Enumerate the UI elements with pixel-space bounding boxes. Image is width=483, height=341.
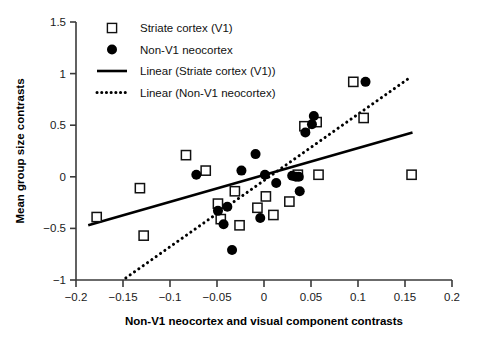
data-point-non-v1-neocortex <box>300 127 310 137</box>
y-tick-label: 0 <box>60 171 66 183</box>
x-tick-label: 0 <box>261 291 267 303</box>
data-point-non-v1-neocortex <box>219 219 229 229</box>
x-tick-label: 0.2 <box>444 291 460 303</box>
data-point-non-v1-neocortex <box>271 178 281 188</box>
data-point-striate-cortex-v1 <box>285 197 294 206</box>
data-point-striate-cortex-v1 <box>359 113 368 122</box>
y-tick-label: −0.5 <box>43 222 66 234</box>
data-point-non-v1-neocortex <box>251 149 261 159</box>
legend-label: Linear (Non-V1 neocortex) <box>140 87 276 99</box>
data-point-striate-cortex-v1 <box>92 212 101 221</box>
y-tick-label: 1.5 <box>50 16 66 28</box>
legend-marker-open-square <box>107 23 116 32</box>
y-tick-label: 1 <box>60 68 66 80</box>
legend-label: Linear (Striate cortex (V1)) <box>140 65 276 77</box>
y-tick-label: −1 <box>53 274 66 286</box>
y-tick-label: 0.5 <box>50 119 66 131</box>
data-point-striate-cortex-v1 <box>314 170 323 179</box>
data-point-striate-cortex-v1 <box>253 203 262 212</box>
data-point-striate-cortex-v1 <box>349 77 358 86</box>
data-point-non-v1-neocortex <box>213 206 223 216</box>
x-axis-title: Non-V1 neocortex and visual component co… <box>125 315 403 327</box>
data-point-non-v1-neocortex <box>295 186 305 196</box>
data-point-non-v1-neocortex <box>227 245 237 255</box>
data-point-striate-cortex-v1 <box>269 210 278 219</box>
x-tick-label: −0.1 <box>159 291 182 303</box>
x-tick-label: −0.05 <box>202 291 231 303</box>
legend-marker-filled-circle <box>107 45 117 55</box>
data-point-striate-cortex-v1 <box>135 184 144 193</box>
data-point-non-v1-neocortex <box>361 77 371 87</box>
data-point-non-v1-neocortex <box>191 170 201 180</box>
data-point-striate-cortex-v1 <box>230 187 239 196</box>
x-tick-label: 0.05 <box>300 291 322 303</box>
y-axis-title: Mean group size contrasts <box>14 78 26 223</box>
data-point-non-v1-neocortex <box>236 166 246 176</box>
x-tick-label: 0.1 <box>350 291 366 303</box>
data-point-striate-cortex-v1 <box>201 166 210 175</box>
data-point-striate-cortex-v1 <box>139 231 148 240</box>
data-point-striate-cortex-v1 <box>235 221 244 230</box>
x-tick-label: 0.15 <box>394 291 416 303</box>
data-point-non-v1-neocortex <box>260 170 270 180</box>
data-point-striate-cortex-v1 <box>407 170 416 179</box>
legend-label: Striate cortex (V1) <box>140 22 233 34</box>
data-point-non-v1-neocortex <box>309 111 319 121</box>
x-axis-tick-labels: −0.2−0.15−0.1−0.0500.050.10.150.2 <box>65 291 460 303</box>
data-point-non-v1-neocortex <box>294 172 304 182</box>
data-point-non-v1-neocortex <box>222 202 232 212</box>
data-point-non-v1-neocortex <box>255 213 265 223</box>
x-tick-label: −0.15 <box>108 291 137 303</box>
data-point-striate-cortex-v1 <box>261 192 270 201</box>
x-tick-label: −0.2 <box>65 291 88 303</box>
data-point-non-v1-neocortex <box>307 119 317 129</box>
data-point-striate-cortex-v1 <box>181 151 190 160</box>
legend-label: Non-V1 neocortex <box>140 44 233 56</box>
scatter-plot-figure: −1−0.500.511.5 −0.2−0.15−0.1−0.0500.050.… <box>0 0 483 341</box>
